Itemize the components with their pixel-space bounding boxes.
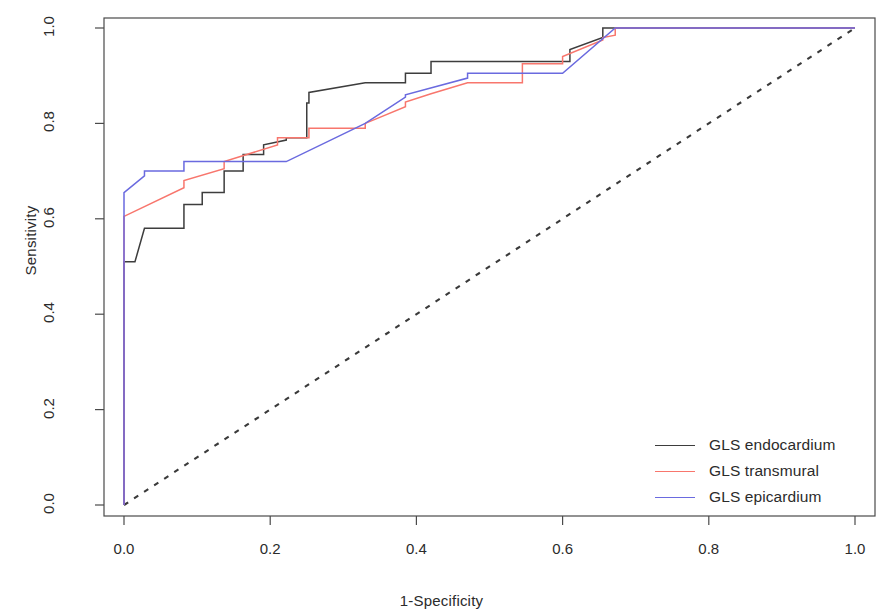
y-tick-label-0.8: 0.8: [40, 100, 57, 144]
legend: GLS endocardiumGLS transmuralGLS epicard…: [655, 432, 883, 510]
legend-label: GLS epicardium: [709, 488, 822, 506]
legend-swatch-icon: [655, 445, 695, 446]
y-tick-label-1.0: 1.0: [40, 5, 57, 49]
x-tick-label-0.0: 0.0: [101, 540, 147, 557]
legend-label: GLS transmural: [709, 462, 819, 480]
y-tick-label-0.2: 0.2: [40, 386, 57, 430]
legend-item-1: GLS transmural: [655, 458, 883, 484]
y-tick-label-0.0: 0.0: [40, 482, 57, 526]
x-tick-label-1.0: 1.0: [832, 540, 878, 557]
legend-swatch-icon: [655, 471, 695, 472]
legend-label: GLS endocardium: [709, 436, 835, 454]
y-axis-title: Sensitivity: [22, 181, 39, 301]
legend-item-2: GLS epicardium: [655, 484, 883, 510]
x-tick-label-0.8: 0.8: [686, 540, 732, 557]
x-axis-title: 1-Specificity: [0, 592, 883, 609]
x-tick-label-0.4: 0.4: [393, 540, 439, 557]
legend-item-0: GLS endocardium: [655, 432, 883, 458]
y-tick-label-0.6: 0.6: [40, 195, 57, 239]
legend-swatch-icon: [655, 497, 695, 498]
x-tick-label-0.6: 0.6: [540, 540, 586, 557]
y-tick-label-0.4: 0.4: [40, 291, 57, 335]
x-tick-label-0.2: 0.2: [247, 540, 293, 557]
